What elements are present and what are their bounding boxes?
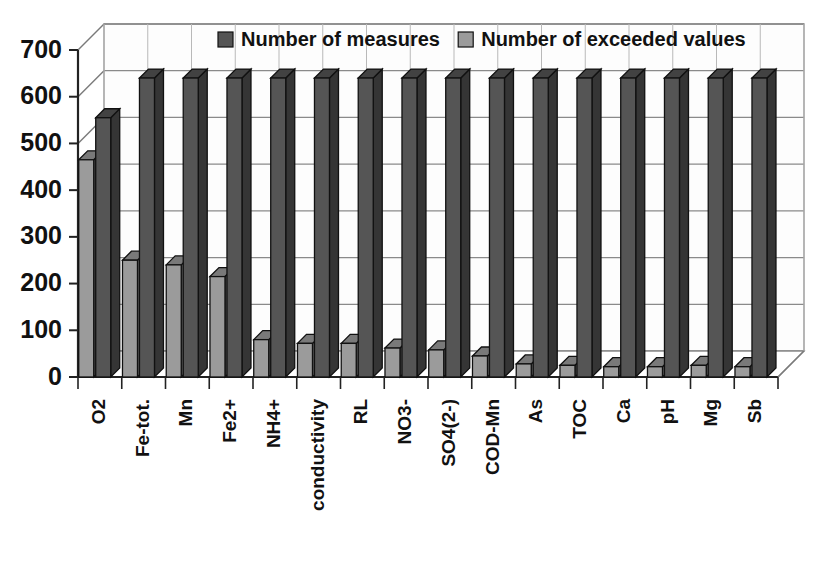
y-axis-labels-group: 0100200300400500600700	[20, 35, 62, 390]
bar-chart-svg: 0100200300400500600700 O2Fe-tot.MnFe2+NH…	[0, 0, 815, 566]
x-axis-tick-label: Ca	[613, 399, 634, 424]
x-axis-tick-label: conductivity	[307, 399, 328, 511]
x-axis-tick-label: Sb	[744, 399, 765, 423]
bar-measures	[664, 69, 688, 377]
legend-swatch	[218, 32, 233, 47]
bar-measures	[533, 69, 557, 377]
bar-measures	[577, 69, 601, 377]
bar-measures	[314, 69, 338, 377]
bar-measures	[139, 69, 163, 377]
legend-label: Number of measures	[241, 28, 440, 50]
y-axis-tick-label: 100	[20, 315, 62, 343]
x-axis-tick-label: NO3-	[394, 399, 415, 444]
y-axis-tick-label: 400	[20, 175, 62, 203]
x-axis-tick-label: SO4(2-)	[438, 399, 459, 467]
chart-container: 0100200300400500600700 O2Fe-tot.MnFe2+NH…	[0, 0, 815, 566]
x-axis-tick-label: O2	[88, 399, 109, 424]
legend-label: Number of exceeded values	[481, 28, 746, 50]
x-axis-tick-label: pH	[657, 399, 678, 424]
x-axis-tick-label: RL	[350, 399, 371, 425]
bar-measures	[271, 69, 295, 377]
x-axis-tick-label: COD-Mn	[482, 399, 503, 475]
x-axis-tick-label: NH4+	[263, 399, 284, 448]
y-axis-tick-label: 200	[20, 268, 62, 296]
x-axis-labels-group: O2Fe-tot.MnFe2+NH4+conductivityRLNO3-SO4…	[88, 399, 765, 511]
bar-measures	[752, 69, 776, 377]
legend-item: Number of exceeded values	[458, 28, 746, 50]
y-axis-tick-label: 0	[48, 362, 62, 390]
bar-measures	[358, 69, 382, 377]
y-axis-tick-label: 700	[20, 35, 62, 63]
legend-item: Number of measures	[218, 28, 440, 50]
bar-measures	[446, 69, 470, 377]
bar-measures	[489, 69, 513, 377]
y-axis-ticks-group	[69, 50, 78, 377]
y-axis-tick-label: 600	[20, 81, 62, 109]
x-axis-tick-label: Fe-tot.	[132, 399, 153, 457]
bar-measures	[227, 69, 251, 377]
x-axis-tick-label: As	[525, 399, 546, 423]
bar-measures	[402, 69, 426, 377]
bar-measures	[183, 69, 207, 377]
legend: Number of measuresNumber of exceeded val…	[218, 28, 746, 50]
x-axis-tick-label: TOC	[569, 399, 590, 439]
y-axis-tick-label: 300	[20, 221, 62, 249]
x-axis-tick-label: Mn	[175, 399, 196, 426]
bar-measures	[621, 69, 645, 377]
legend-swatch	[458, 32, 473, 47]
y-axis-tick-label: 500	[20, 128, 62, 156]
x-axis-tick-label: Fe2+	[219, 399, 240, 443]
bar-measures	[708, 69, 732, 377]
x-axis-tick-label: Mg	[700, 399, 721, 426]
bar-measures	[96, 109, 120, 377]
